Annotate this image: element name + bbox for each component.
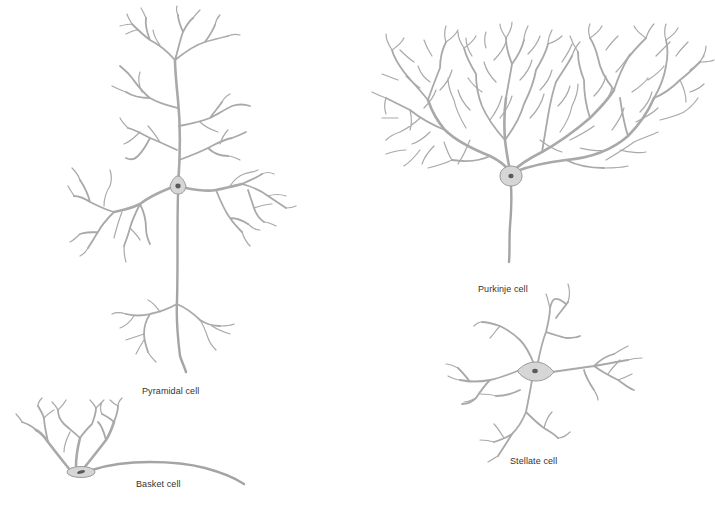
purkinje-cell-label: Purkinje cell: [478, 284, 528, 294]
purkinje-cell-drawing: [372, 22, 714, 262]
stellate-cell-drawing: [446, 284, 642, 462]
stellate-cell-label: Stellate cell: [510, 456, 557, 466]
pyramidal-cell-drawing: [68, 6, 296, 372]
pyramidal-cell-label: Pyramidal cell: [142, 386, 199, 396]
neuron-types-figure: Pyramidal cell Basket cell Purkinje cell…: [0, 0, 715, 505]
basket-cell-drawing: [16, 398, 244, 484]
neuron-illustrations: [0, 0, 715, 505]
basket-cell-label: Basket cell: [136, 479, 181, 489]
